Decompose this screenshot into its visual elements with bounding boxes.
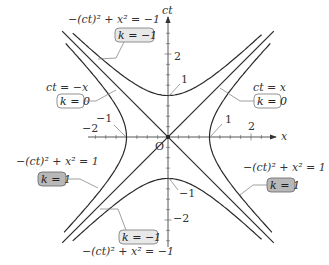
ct-tick-minus-2: −2 [173,212,189,225]
k-label-right: k = 1 [270,179,300,192]
eq-bottom: −(ct)² + x² = −1 [82,245,174,258]
eq-top-left: −(ct)² + x² = −1 [68,13,160,26]
spacetime-diagram: x ct O 2 −2 2 −2 1 −1 1 −1 −(ct)² + x² =… [0,0,329,265]
eq-left-line: ct = −x [46,81,89,94]
origin-label: O [155,140,164,153]
vertex-label-top: 1 [181,73,188,86]
k-label-right-line: k = 0 [257,95,287,108]
k-label-bottom: k = −1 [122,231,161,244]
eq-right: −(ct)² + x² = 1 [243,161,326,174]
k-label-top-left: k = −1 [118,29,157,42]
x-axis-label: x [281,130,288,143]
ct-tick-2: 2 [174,50,181,63]
ct-axis-label: ct [162,4,173,17]
x-tick-2: 2 [248,120,255,133]
vertex-label-right: 1 [225,113,232,126]
vertex-label-bottom: −1 [179,187,195,200]
vertex-label-left: −1 [96,112,112,125]
eq-right-line: ct = x [253,81,287,94]
k-label-left-line: k = 0 [60,95,90,108]
eq-left: −(ct)² + x² = 1 [16,155,99,168]
k-label-left: k = 1 [41,173,71,186]
